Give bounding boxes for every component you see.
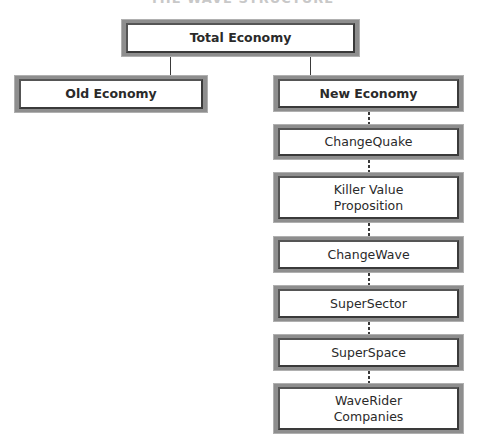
dashed-connector xyxy=(368,273,370,285)
node-label: Killer Value Proposition xyxy=(278,176,459,219)
dashed-connector xyxy=(368,223,370,236)
connector-new-economy xyxy=(310,57,311,76)
connector-old-economy xyxy=(170,57,171,76)
node-label: SuperSpace xyxy=(278,338,459,367)
dashed-connector xyxy=(368,112,370,124)
node-supersector: SuperSector xyxy=(273,285,464,322)
node-superspace: SuperSpace xyxy=(273,334,464,371)
node-label: Total Economy xyxy=(126,23,355,53)
dashed-connector xyxy=(368,371,370,383)
node-killer-value-proposition: Killer Value Proposition xyxy=(273,172,464,223)
node-label: WaveRider Companies xyxy=(278,387,459,430)
node-changewave: ChangeWave xyxy=(273,236,464,273)
node-total-economy: Total Economy xyxy=(121,19,360,57)
node-changequake: ChangeQuake xyxy=(273,124,464,160)
node-label: ChangeWave xyxy=(278,240,459,269)
node-label: Old Economy xyxy=(19,79,203,109)
node-new-economy: New Economy xyxy=(273,75,464,112)
dashed-connector xyxy=(368,322,370,334)
node-waverider-companies: WaveRider Companies xyxy=(273,383,464,434)
diagram-title: THE WAVE STRUCTURE xyxy=(0,0,484,6)
node-old-economy: Old Economy xyxy=(14,75,208,113)
node-label: New Economy xyxy=(278,79,459,108)
dashed-connector xyxy=(368,160,370,172)
node-label: ChangeQuake xyxy=(278,128,459,156)
node-label: SuperSector xyxy=(278,289,459,318)
